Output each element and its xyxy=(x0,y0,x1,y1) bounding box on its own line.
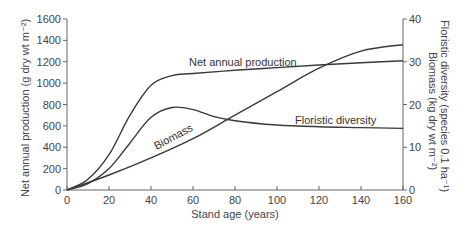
left-tick-label: 600 xyxy=(43,120,61,132)
label-net-annual-production: Net annual production xyxy=(189,56,297,68)
left-tick-label: 400 xyxy=(43,141,61,153)
right-y-ticks: 010203040 xyxy=(403,13,421,196)
x-tick-label: 160 xyxy=(394,194,412,206)
left-tick-label: 200 xyxy=(43,163,61,175)
x-tick-label: 140 xyxy=(352,194,370,206)
label-biomass: Biomass xyxy=(152,121,195,152)
left-tick-label: 1600 xyxy=(37,13,61,25)
axes xyxy=(67,19,403,190)
left-tick-label: 1400 xyxy=(37,34,61,46)
x-tick-label: 40 xyxy=(145,194,157,206)
chart: 02004006008001000120014001600 010203040 … xyxy=(0,0,468,236)
left-tick-label: 0 xyxy=(55,184,61,196)
x-tick-label: 100 xyxy=(268,194,286,206)
left-y-axis-title: Net annual production (g dry wt m⁻²) xyxy=(19,19,31,197)
x-tick-label: 120 xyxy=(310,194,328,206)
left-tick-label: 1200 xyxy=(37,56,61,68)
right-y-axis-title-biomass: Biomass (kg dry wt m⁻²) xyxy=(427,52,439,170)
label-floristic-diversity: Floristic diversity xyxy=(295,114,377,126)
x-tick-label: 80 xyxy=(229,194,241,206)
x-tick-label: 60 xyxy=(187,194,199,206)
right-tick-label: 10 xyxy=(409,141,421,153)
x-tick-label: 20 xyxy=(103,194,115,206)
right-y-axis-title-diversity: Floristic diversity (species 0.1 ha⁻¹) xyxy=(439,20,451,192)
left-tick-label: 1000 xyxy=(37,77,61,89)
left-y-ticks: 02004006008001000120014001600 xyxy=(37,13,67,196)
x-tick-label: 0 xyxy=(64,194,70,206)
right-tick-label: 30 xyxy=(409,56,421,68)
x-axis-title: Stand age (years) xyxy=(191,208,278,220)
left-tick-label: 800 xyxy=(43,99,61,111)
right-tick-label: 20 xyxy=(409,99,421,111)
x-ticks: 020406080100120140160 xyxy=(64,186,412,206)
right-tick-label: 40 xyxy=(409,13,421,25)
